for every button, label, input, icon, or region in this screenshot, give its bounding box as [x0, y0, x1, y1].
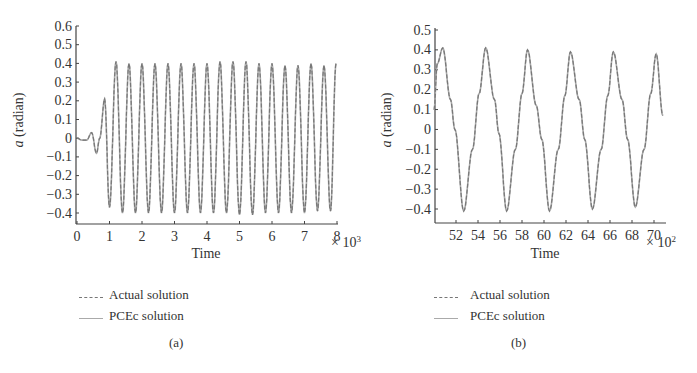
y-tick-label: −0.3 [47, 187, 72, 202]
y-tick-label: 0 [424, 122, 431, 137]
x-axis-title: Time [530, 246, 559, 261]
x-tick-label: 6 [269, 229, 276, 244]
x-tick-label: 62 [559, 228, 573, 243]
y-tick-label: 0.1 [55, 112, 73, 127]
x-tick-label: 2 [139, 229, 146, 244]
series-actual-solution [434, 48, 663, 211]
y-tick-label: 0 [65, 131, 72, 146]
legend-label-actual: Actual solution [470, 287, 550, 303]
y-tick-label: 0.6 [55, 19, 73, 34]
x-tick-label: 5 [236, 229, 243, 244]
x-tick-label: 68 [625, 228, 639, 243]
x-tick-label: 3 [171, 229, 178, 244]
y-tick-label: −0.4 [406, 202, 431, 217]
legend-label-pcec: PCEc solution [109, 308, 184, 324]
chart-b: 0.50.40.30.20.10−0.1−0.2−0.3−0.452545658… [379, 23, 676, 262]
y-tick-label: 0.2 [55, 93, 73, 108]
caption-b: (b) [511, 335, 526, 351]
y-tick-label: 0.2 [414, 82, 432, 97]
x-axis-multiplier: × 103 [331, 234, 361, 250]
y-tick-label: −0.2 [47, 168, 72, 183]
x-tick-label: 54 [471, 228, 485, 243]
x-axis-title: Time [191, 246, 220, 261]
legend-label-actual: Actual solution [109, 287, 189, 303]
x-tick-label: 52 [449, 228, 463, 243]
y-tick-label: 0.1 [414, 102, 432, 117]
y-tick-label: −0.3 [406, 182, 431, 197]
y-axis-title: a (radian) [379, 92, 395, 147]
chart-a: 0.60.50.40.30.20.10−0.1−0.2−0.3−0.401234… [11, 19, 361, 262]
series-pcec-solution [77, 62, 336, 215]
x-tick-label: 66 [603, 228, 617, 243]
x-tick-label: 7 [301, 229, 308, 244]
x-tick-label: 58 [515, 228, 529, 243]
x-axis-multiplier: × 102 [646, 234, 676, 250]
legend-swatch-actual-dashed [79, 297, 103, 298]
y-tick-label: 0.3 [414, 62, 432, 77]
legend-label-pcec: PCEc solution [470, 308, 545, 324]
x-tick-label: 4 [204, 229, 211, 244]
legend-swatch-pcec-solid [79, 318, 103, 319]
figure-canvas: 0.60.50.40.30.20.10−0.1−0.2−0.3−0.401234… [0, 0, 697, 373]
x-tick-label: 1 [106, 229, 113, 244]
y-tick-label: 0.4 [414, 42, 432, 57]
x-tick-label: 56 [493, 228, 507, 243]
caption-a: (a) [169, 335, 183, 351]
y-tick-label: −0.4 [47, 206, 72, 221]
y-tick-label: 0.5 [55, 37, 73, 52]
y-axis-title: a (radian) [11, 92, 27, 147]
legend-swatch-pcec-solid [434, 318, 458, 319]
x-tick-label: 0 [74, 229, 81, 244]
y-tick-label: 0.5 [414, 23, 432, 38]
y-tick-label: −0.2 [406, 162, 431, 177]
legend-swatch-actual-dashed [434, 297, 458, 298]
series-pcec-solution [434, 48, 663, 211]
y-tick-label: −0.1 [47, 149, 72, 164]
y-tick-label: 0.3 [55, 75, 73, 90]
y-tick-label: −0.1 [406, 142, 431, 157]
y-tick-label: 0.4 [55, 56, 73, 71]
x-tick-label: 64 [581, 228, 595, 243]
x-tick-label: 60 [537, 228, 551, 243]
